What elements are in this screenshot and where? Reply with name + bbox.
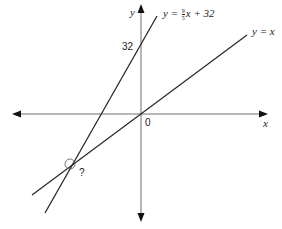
y-axis-up-arrow-icon: [138, 4, 145, 13]
fahrenheit-equation-label: y = 95x + 32: [163, 8, 215, 21]
coordinate-plane: [0, 0, 282, 229]
y-axis-label: y: [130, 7, 135, 18]
x-axis-label: x: [263, 118, 268, 129]
y-axis: [138, 4, 145, 222]
identity-equation-label: y = x: [252, 26, 275, 37]
origin-label: 0: [145, 118, 151, 128]
intersection-question-label: ?: [79, 168, 85, 178]
line-identity: [32, 35, 247, 195]
y-intercept-label: 32: [122, 42, 133, 52]
fraction: 95: [182, 8, 185, 21]
x-axis-left-arrow-icon: [12, 111, 21, 118]
y-axis-down-arrow-icon: [138, 213, 145, 222]
